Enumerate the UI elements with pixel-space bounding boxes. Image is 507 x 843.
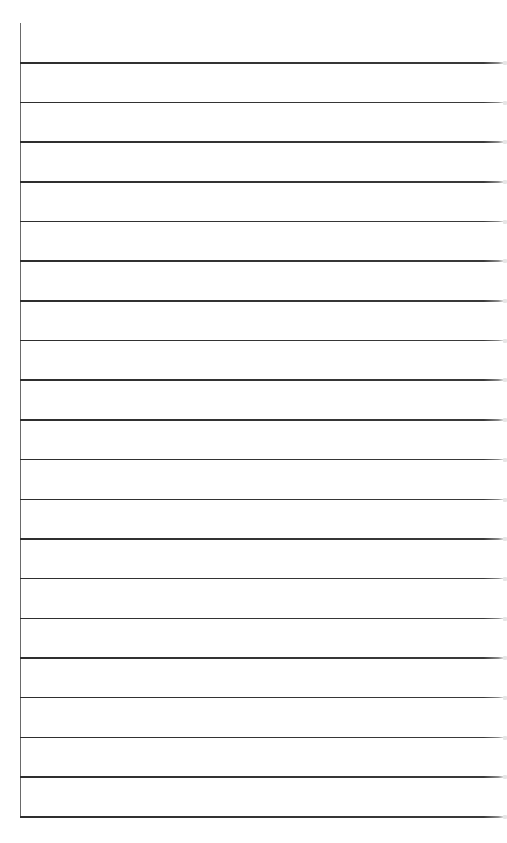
ruled-line bbox=[20, 776, 503, 778]
ruled-line bbox=[20, 260, 503, 262]
ruled-line bbox=[20, 62, 503, 64]
ruled-line bbox=[20, 419, 503, 421]
ruled-line bbox=[20, 578, 503, 580]
ruled-line bbox=[20, 221, 503, 223]
ruled-line bbox=[20, 181, 503, 183]
ruled-line bbox=[20, 141, 503, 143]
ruled-line bbox=[20, 499, 503, 501]
ruled-line bbox=[20, 340, 503, 342]
ruled-line bbox=[20, 102, 503, 104]
ruled-line bbox=[20, 618, 503, 620]
ruled-line bbox=[20, 538, 503, 540]
ruled-line bbox=[20, 657, 503, 659]
ruled-line bbox=[20, 300, 503, 302]
ruled-line bbox=[20, 816, 503, 818]
ruled-line bbox=[20, 697, 503, 699]
ruled-line bbox=[20, 379, 503, 381]
ruled-line bbox=[20, 459, 503, 461]
ruled-line bbox=[20, 737, 503, 739]
lined-paper bbox=[0, 0, 507, 843]
